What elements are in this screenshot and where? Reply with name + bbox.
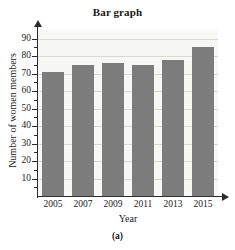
gridline <box>38 144 218 145</box>
gridline <box>38 56 218 57</box>
gridline <box>38 91 218 92</box>
bar <box>192 47 214 196</box>
y-minor-tick-mark <box>34 170 38 171</box>
gridline <box>38 179 218 180</box>
y-tick-mark <box>32 161 38 162</box>
bar <box>162 60 184 196</box>
x-tick-label: 2009 <box>98 199 128 210</box>
bar <box>72 65 94 196</box>
y-minor-tick-mark <box>34 100 38 101</box>
x-axis-line <box>37 196 223 197</box>
y-tick-mark <box>32 91 38 92</box>
y-tick-mark <box>32 74 38 75</box>
y-minor-tick-mark <box>34 65 38 66</box>
y-tick-mark <box>32 144 38 145</box>
y-minor-tick-mark <box>34 152 38 153</box>
x-tick-label: 2011 <box>128 199 158 210</box>
y-axis-title: Number of women members <box>7 31 18 191</box>
y-minor-tick-mark <box>34 187 38 188</box>
x-tick-label: 2015 <box>188 199 218 210</box>
plot-area <box>38 30 218 196</box>
y-axis-line <box>37 26 38 198</box>
bar <box>42 72 64 196</box>
figure-label: (a) <box>0 231 235 241</box>
gridline <box>38 74 218 75</box>
bar <box>102 63 124 196</box>
y-minor-tick-mark <box>34 47 38 48</box>
y-tick-mark <box>32 56 38 57</box>
x-tick-label: 2005 <box>38 199 68 210</box>
y-tick-mark <box>32 179 38 180</box>
bar <box>132 65 154 196</box>
y-minor-tick-mark <box>34 135 38 136</box>
x-tick-label: 2007 <box>68 199 98 210</box>
y-tick-mark <box>32 109 38 110</box>
bar-chart-figure: Bar graph 102030405060708090 20052007200… <box>0 0 235 250</box>
y-minor-tick-mark <box>34 82 38 83</box>
x-tick-label: 2013 <box>158 199 188 210</box>
y-minor-tick-mark <box>34 117 38 118</box>
gridline <box>38 161 218 162</box>
chart-title: Bar graph <box>0 6 235 18</box>
x-axis-arrow-icon <box>222 193 229 201</box>
y-tick-mark <box>32 126 38 127</box>
gridline <box>38 39 218 40</box>
y-axis-arrow-icon <box>34 20 42 27</box>
gridline <box>38 126 218 127</box>
y-tick-mark <box>32 39 38 40</box>
x-axis-title: Year <box>38 213 218 224</box>
gridline <box>38 109 218 110</box>
